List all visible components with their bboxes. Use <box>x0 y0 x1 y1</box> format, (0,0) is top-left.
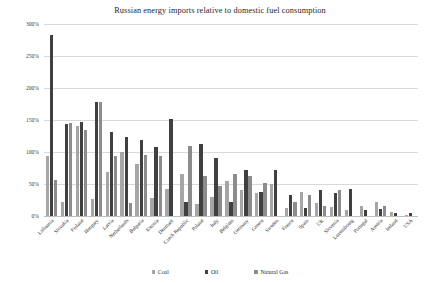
bar-group <box>59 24 74 216</box>
bar <box>95 102 98 216</box>
bar <box>218 186 221 216</box>
bar <box>114 156 117 216</box>
bar <box>330 207 333 216</box>
bar <box>61 202 64 216</box>
bar <box>244 170 247 216</box>
bar <box>154 147 157 216</box>
x-axis-label-cell: Germany <box>238 216 253 260</box>
y-axis-tick-label: 0% <box>32 213 39 219</box>
legend-label: Oil <box>211 269 218 275</box>
bar <box>334 193 337 216</box>
x-axis-label-cell: Czech Republic <box>179 216 194 260</box>
bar <box>46 156 49 216</box>
bar <box>229 202 232 216</box>
bar <box>129 203 132 216</box>
x-axis-label-cell: Belgium <box>223 216 238 260</box>
bar-group <box>223 24 238 216</box>
x-axis-label-cell: Poland <box>194 216 209 260</box>
bar <box>383 206 386 216</box>
bar <box>140 140 143 216</box>
x-axis-tick-label: Greece <box>250 218 264 232</box>
bar <box>300 192 303 216</box>
legend-swatch-coal <box>152 270 156 274</box>
x-axis-label-cell: Hungary <box>89 216 104 260</box>
x-axis-label-cell: Portugal <box>358 216 373 260</box>
bar-group <box>104 24 119 216</box>
bar <box>233 174 236 216</box>
bar-group <box>268 24 283 216</box>
bar <box>304 208 307 216</box>
bar-group <box>388 24 403 216</box>
bar <box>323 206 326 216</box>
bar <box>240 190 243 216</box>
bar <box>99 102 102 216</box>
y-axis-tick-label: 300% <box>26 21 39 27</box>
bar <box>106 172 109 216</box>
y-axis-tick-label: 200% <box>26 85 39 91</box>
bar <box>210 197 213 216</box>
bar-group <box>149 24 164 216</box>
bar <box>293 202 296 216</box>
x-axis-label-cell: Austria <box>373 216 388 260</box>
bar <box>375 202 378 216</box>
x-axis-label-cell: Netherlands <box>119 216 134 260</box>
chart-container: Russian energy imports relative to domes… <box>0 0 440 283</box>
bar <box>199 144 202 216</box>
y-axis-tick-label: 250% <box>26 53 39 59</box>
bar <box>349 189 352 216</box>
y-axis-labels: 0%50%100%150%200%250%300% <box>0 24 42 216</box>
x-axis-label-cell: Sweden <box>268 216 283 260</box>
x-axis-labels: LithuaniaSlovakiaFinlandHungaryLatviaNet… <box>44 216 418 260</box>
bar <box>338 190 341 216</box>
bar-group <box>194 24 209 216</box>
legend-label: Coal <box>158 269 169 275</box>
bar <box>289 195 292 216</box>
bar-group <box>89 24 104 216</box>
bar-group <box>253 24 268 216</box>
bar <box>360 206 363 216</box>
bar-group <box>343 24 358 216</box>
x-axis-label-cell: France <box>283 216 298 260</box>
bar-group <box>373 24 388 216</box>
chart-legend: CoalOilNatural Gas <box>0 269 440 275</box>
bar <box>188 146 191 216</box>
x-axis-label-cell: Slovakia <box>59 216 74 260</box>
x-axis-label-cell: Italy <box>208 216 223 260</box>
x-axis-tick-label: Poland <box>191 218 205 232</box>
legend-swatch-oil <box>205 270 209 274</box>
x-axis-label-cell: Ireland <box>388 216 403 260</box>
bar-group <box>74 24 89 216</box>
legend-item: Oil <box>205 269 219 275</box>
x-axis-tick-label: Spain <box>297 218 309 230</box>
bar <box>225 181 228 216</box>
bar <box>274 170 277 216</box>
bar <box>91 199 94 216</box>
bar <box>76 126 79 216</box>
bar <box>150 198 153 216</box>
bar-group <box>208 24 223 216</box>
bar-group <box>298 24 313 216</box>
bar <box>180 174 183 216</box>
bar-groups <box>44 24 418 216</box>
legend-label: Natural Gas <box>260 269 288 275</box>
bar-group <box>358 24 373 216</box>
bar <box>165 189 168 216</box>
bar <box>195 204 198 216</box>
bar-group <box>238 24 253 216</box>
bar <box>259 192 262 216</box>
bar-group <box>44 24 59 216</box>
bar <box>255 193 258 216</box>
bar <box>84 130 87 216</box>
bar <box>270 184 273 216</box>
bar-group <box>179 24 194 216</box>
bar <box>65 124 68 216</box>
x-axis-label-cell: Greece <box>253 216 268 260</box>
bar-group <box>403 24 418 216</box>
y-axis-tick-label: 50% <box>29 181 39 187</box>
bar <box>319 190 322 216</box>
bar-group <box>313 24 328 216</box>
legend-item: Natural Gas <box>254 269 288 275</box>
bar-group <box>283 24 298 216</box>
bar <box>308 195 311 216</box>
bar <box>120 152 123 216</box>
